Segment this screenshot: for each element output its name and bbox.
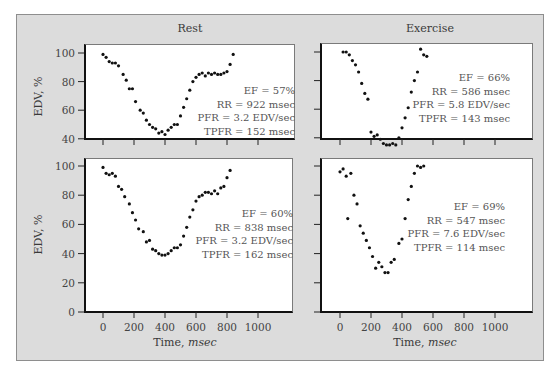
data-point: [219, 186, 222, 189]
x-tick-label: 200: [124, 321, 144, 333]
data-point: [198, 195, 201, 198]
x-axis-label-prefix: Time,: [393, 336, 428, 349]
data-point: [139, 109, 142, 112]
data-point: [170, 249, 173, 252]
data-point: [134, 100, 137, 103]
data-point: [101, 53, 104, 56]
stat-pfr: PFR = 3.2 EDV/sec: [190, 111, 295, 125]
data-point: [369, 130, 372, 133]
stat-ef: EF = 69%: [400, 200, 505, 214]
data-point: [167, 252, 170, 255]
data-point: [120, 188, 123, 191]
y-tick-label: 0: [68, 306, 75, 318]
data-point: [151, 248, 154, 251]
stats-exercise-top: EF = 66% RR = 586 msec PFR = 5.8 EDV/sec…: [405, 71, 510, 125]
data-point: [373, 135, 376, 138]
data-point: [134, 218, 137, 221]
data-point: [160, 130, 163, 133]
data-point: [357, 70, 360, 73]
data-point: [422, 53, 425, 56]
data-point: [216, 192, 219, 195]
data-point: [379, 138, 382, 141]
data-point: [142, 111, 145, 114]
data-point: [352, 194, 355, 197]
data-point: [185, 97, 188, 100]
data-point: [145, 240, 148, 243]
data-point: [108, 60, 111, 63]
data-point: [182, 234, 185, 237]
data-point: [380, 265, 383, 268]
data-point: [191, 80, 194, 83]
data-point: [397, 136, 400, 139]
data-point: [338, 170, 341, 173]
stat-ef: EF = 66%: [405, 71, 510, 85]
stat-tpfr: TPFR = 152 msec: [190, 125, 295, 139]
stat-pfr: PFR = 3.2 EDV/sec: [188, 234, 293, 248]
data-point: [207, 71, 210, 74]
stat-tpfr: TPFR = 143 msec: [405, 112, 510, 126]
stat-rr: RR = 922 msec: [190, 98, 295, 112]
data-point: [351, 59, 354, 62]
data-point: [145, 119, 148, 122]
data-point: [137, 227, 140, 230]
data-point: [388, 143, 391, 146]
data-point: [229, 63, 232, 66]
stat-tpfr: TPFR = 114 msec: [400, 241, 505, 255]
data-point: [148, 239, 151, 242]
stats-exercise-bottom: EF = 69% RR = 547 msec PFR = 7.6 EDV/sec…: [400, 200, 505, 254]
x-tick-label: 0: [337, 321, 344, 333]
x-tick-label: 600: [423, 321, 443, 333]
data-point: [173, 123, 176, 126]
y-tick-label: 80: [62, 189, 75, 201]
x-tick-label: 0: [100, 321, 107, 333]
data-point: [179, 243, 182, 246]
stat-rr: RR = 838 msec: [188, 221, 293, 235]
data-point: [362, 232, 365, 235]
x-tick-label: 600: [186, 321, 206, 333]
data-point: [382, 142, 385, 145]
stat-pfr: PFR = 7.6 EDV/sec: [400, 227, 505, 241]
data-point: [167, 129, 170, 132]
data-point: [348, 53, 351, 56]
x-tick-label: 800: [454, 321, 474, 333]
data-point: [374, 267, 377, 270]
data-point: [232, 53, 235, 56]
data-point: [394, 143, 397, 146]
data-point: [410, 185, 413, 188]
chart-layer: 4060801000204060801000200400600800100002…: [0, 0, 560, 378]
stat-rr: RR = 547 msec: [400, 214, 505, 228]
data-point: [128, 87, 131, 90]
data-point: [198, 73, 201, 76]
data-point: [182, 106, 185, 109]
data-point: [201, 194, 204, 197]
x-tick-label: 400: [155, 321, 175, 333]
data-point: [366, 98, 369, 101]
data-point: [219, 73, 222, 76]
data-point: [385, 143, 388, 146]
data-point: [160, 253, 163, 256]
data-point: [194, 76, 197, 79]
data-point: [210, 192, 213, 195]
data-point: [360, 82, 363, 85]
x-axis-label-rest: Time, msec: [130, 336, 240, 349]
x-axis-label-exercise: Time, msec: [370, 336, 480, 349]
data-point: [125, 79, 128, 82]
data-point: [419, 48, 422, 51]
data-point: [154, 249, 157, 252]
y-tick-label: 60: [62, 218, 75, 230]
data-point: [377, 261, 380, 264]
data-point: [105, 172, 108, 175]
x-axis-label-unit: msec: [428, 336, 457, 349]
data-point: [371, 255, 374, 258]
stat-ef: EF = 57%: [190, 84, 295, 98]
stat-ef: EF = 60%: [188, 207, 293, 221]
data-point: [222, 185, 225, 188]
data-point: [123, 195, 126, 198]
data-point: [122, 73, 125, 76]
data-point: [365, 239, 368, 242]
data-point: [422, 164, 425, 167]
data-point: [204, 74, 207, 77]
x-axis-label-prefix: Time,: [153, 336, 188, 349]
x-tick-label: 400: [392, 321, 412, 333]
x-tick-label: 200: [361, 321, 381, 333]
